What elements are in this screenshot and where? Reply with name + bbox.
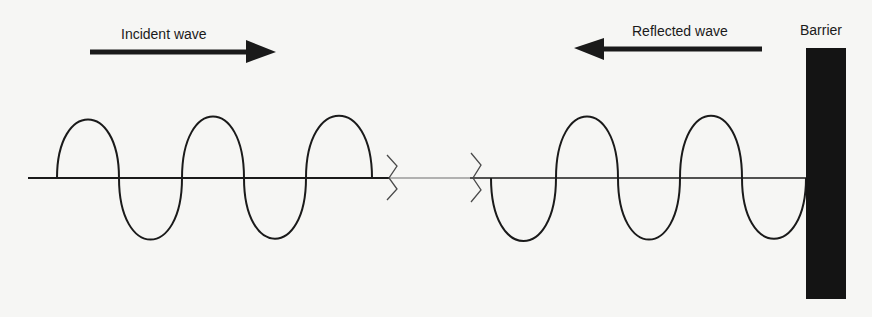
incident-direction-arrow bbox=[90, 40, 276, 63]
barrier-label: Barrier bbox=[800, 23, 842, 37]
barrier-wall bbox=[806, 48, 846, 299]
incident-wave-label: Incident wave bbox=[121, 27, 207, 41]
reflected-wave-label: Reflected wave bbox=[632, 24, 728, 38]
wave-reflection-diagram bbox=[0, 0, 872, 317]
reflected-direction-arrow bbox=[574, 38, 762, 60]
